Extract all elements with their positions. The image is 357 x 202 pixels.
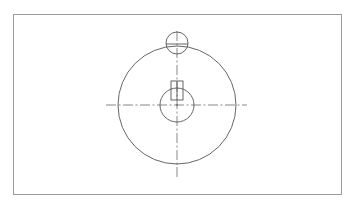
technical-drawing	[0, 0, 357, 202]
center-point	[176, 104, 178, 106]
